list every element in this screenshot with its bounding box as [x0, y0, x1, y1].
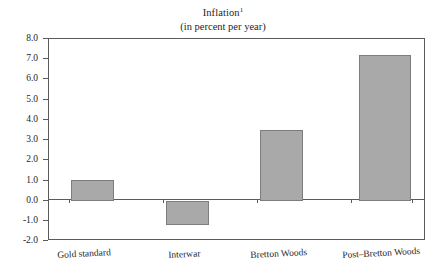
- y-tick-label-5: 5.0: [0, 94, 38, 104]
- x-label-gold-standard: Gold standard: [57, 247, 111, 260]
- x-tick-1: [163, 199, 164, 203]
- chart-title-footnote-marker: 1: [240, 6, 244, 14]
- y-tick-label-0: 0.0: [0, 195, 38, 205]
- y-tick-label-neg2: -2.0: [0, 235, 38, 245]
- bar-bretton-woods: [260, 130, 303, 201]
- plot-area: [48, 38, 425, 240]
- chart-title: Inflation1: [203, 7, 244, 19]
- chart-subtitle: (in percent per year): [0, 21, 446, 33]
- x-tick-2: [257, 199, 258, 203]
- x-tick-4: [412, 199, 413, 203]
- y-tick-label-8: 8.0: [0, 33, 38, 43]
- bar-post-bretton-woods: [359, 55, 411, 200]
- y-tick-label-7: 7.0: [0, 53, 38, 63]
- y-tick-label-2: 2.0: [0, 154, 38, 164]
- inflation-bar-chart: Inflation1 (in percent per year) 8.0 7.0…: [0, 0, 446, 278]
- chart-title-block: Inflation1 (in percent per year): [0, 2, 446, 33]
- x-tick-0: [69, 199, 70, 203]
- y-tick-label-1: 1.0: [0, 175, 38, 185]
- y-tick-label-neg1: -1.0: [0, 215, 38, 225]
- x-label-interwar: Interwar: [168, 248, 201, 260]
- bar-interwar: [166, 201, 209, 225]
- chart-title-text: Inflation: [203, 7, 240, 18]
- y-tick-label-4: 4.0: [0, 114, 38, 124]
- x-tick-3: [351, 199, 352, 203]
- x-label-bretton-woods: Bretton Woods: [250, 247, 307, 260]
- y-tick-label-3: 3.0: [0, 134, 38, 144]
- y-tick-neg2: [43, 240, 48, 241]
- bar-gold-standard: [71, 180, 114, 200]
- y-tick-label-6: 6.0: [0, 73, 38, 83]
- x-label-post-bretton-woods: Post–Bretton Woods: [342, 246, 420, 260]
